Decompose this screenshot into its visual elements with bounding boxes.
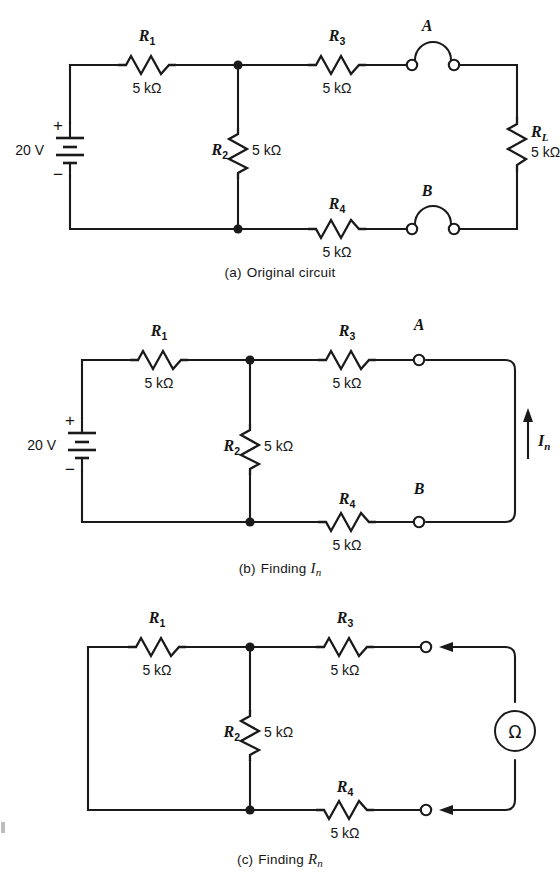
source-voltage-label: 20 V — [27, 437, 56, 453]
resistor-c-r3-value: 5 kΩ — [330, 662, 359, 678]
resistor-b-r2-value: 5 kΩ — [264, 438, 293, 454]
resistor-b-r4 — [318, 513, 376, 531]
battery-plus-sign: + — [53, 116, 63, 135]
caption-panel-b: (b)Finding In — [0, 560, 560, 578]
resistor-c-r4-zigzag — [316, 801, 374, 819]
resistor-c-r4 — [316, 801, 374, 819]
resistor-c-r1-zigzag — [128, 638, 186, 656]
resistor-r4-zigzag — [308, 220, 366, 238]
wire-c-bottom-lead — [505, 760, 515, 810]
resistor-b-r1-value: 5 kΩ — [144, 375, 173, 391]
caption-c-text: Finding — [258, 852, 308, 867]
resistor-c-r2 — [241, 710, 259, 761]
caption-panel-c: (c)Finding Rn — [0, 851, 560, 869]
resistor-r2-name: R2 — [210, 141, 228, 161]
caption-c-symbol: R — [308, 851, 317, 867]
resistor-c-r1 — [128, 638, 186, 656]
resistor-r1 — [118, 56, 176, 74]
ohm-icon: Ω — [509, 722, 522, 742]
arrow-head-top-left — [439, 642, 453, 652]
resistor-c-r2-value: 5 kΩ — [264, 724, 293, 740]
resistor-r3-name: R3 — [328, 27, 346, 47]
caption-b-symbol-sub: n — [316, 566, 322, 578]
caption-a-label: (a) — [225, 265, 242, 280]
terminal-b-right-post[interactable] — [449, 224, 459, 234]
resistor-b-r1 — [130, 351, 188, 369]
resistor-c-r3 — [316, 638, 374, 656]
norton-theorem-figure: A B — [0, 0, 560, 878]
resistor-rl-zigzag — [508, 117, 526, 172]
wire-b-left-bottom — [82, 471, 250, 522]
resistor-r1-value: 5 kΩ — [132, 80, 161, 96]
resistor-c-r2-name: R2 — [222, 723, 240, 743]
resistor-b-r4-zigzag — [318, 513, 376, 531]
caption-a-text: Original circuit — [247, 265, 336, 280]
resistor-b-r3-name: R3 — [338, 322, 356, 342]
panel-a-original-circuit: A B — [0, 0, 560, 300]
resistor-b-r1-zigzag — [130, 351, 188, 369]
resistor-b-r3-value: 5 kΩ — [332, 375, 361, 391]
resistor-c-r4-name: R4 — [336, 778, 354, 798]
resistor-rl — [508, 117, 526, 172]
resistor-b-r2 — [241, 424, 259, 475]
resistor-r4-value: 5 kΩ — [322, 244, 351, 260]
wire-right-bottom — [459, 172, 517, 229]
terminal-a-left-post[interactable] — [407, 60, 417, 70]
terminal-a-label: A — [413, 316, 425, 333]
resistor-c-r2-zigzag — [241, 710, 259, 761]
caption-c-label: (c) — [237, 852, 253, 867]
terminal-a-label: A — [421, 17, 433, 34]
jumper-arc-b — [415, 206, 451, 224]
current-label-in: In — [537, 432, 550, 452]
resistor-b-r4-value: 5 kΩ — [332, 537, 361, 553]
current-arrow-in-head — [523, 408, 533, 422]
resistor-r3 — [308, 56, 366, 74]
wire-c-top-lead — [505, 647, 515, 702]
resistor-b-r4-name: R4 — [338, 490, 356, 510]
lead-arrow-top — [439, 642, 515, 702]
resistor-b-r2-zigzag — [241, 424, 259, 475]
resistor-b-r3-zigzag — [318, 351, 376, 369]
source-voltage-label: 20 V — [15, 142, 44, 158]
lead-arrow-bottom — [439, 760, 515, 815]
resistor-b-r1-name: R1 — [150, 322, 168, 342]
caption-c-symbol-sub: n — [317, 857, 323, 869]
page-edge-artifact — [1, 822, 5, 833]
resistor-r3-value: 5 kΩ — [322, 80, 351, 96]
resistor-b-r2-name: R2 — [222, 437, 240, 457]
panel-c-finding-rn: Ω R1 5 k — [0, 592, 560, 878]
resistor-r2 — [229, 128, 247, 179]
resistor-c-r1-value: 5 kΩ — [142, 662, 171, 678]
arrow-head-bottom-left — [439, 805, 453, 815]
caption-panel-a: (a)Original circuit — [0, 265, 560, 280]
resistor-b-r3 — [318, 351, 376, 369]
terminal-b-left-post[interactable] — [407, 224, 417, 234]
terminal-a-right-post[interactable] — [449, 60, 459, 70]
caption-b-text: Finding — [261, 561, 311, 576]
resistor-c-r1-name: R1 — [148, 609, 166, 629]
terminal-b-panel-a-post[interactable] — [414, 355, 424, 365]
resistor-c-r3-zigzag — [316, 638, 374, 656]
ohmmeter-symbol: Ω — [495, 711, 535, 751]
terminal-b-label: B — [413, 480, 425, 497]
wire-b-short-link — [426, 360, 515, 522]
current-arrow-in — [523, 408, 533, 458]
battery-minus-sign: − — [65, 460, 75, 479]
resistor-r4-name: R4 — [328, 195, 346, 215]
resistor-c-r3-name: R3 — [336, 609, 354, 629]
resistor-r1-zigzag — [118, 56, 176, 74]
terminal-c-bottom-post[interactable] — [421, 805, 431, 815]
resistor-c-r4-value: 5 kΩ — [330, 825, 359, 841]
battery-minus-sign: − — [53, 165, 63, 184]
resistor-rl-name: RL — [530, 123, 549, 143]
resistor-r2-value: 5 kΩ — [252, 142, 281, 158]
wire-right-top — [459, 65, 517, 117]
resistor-r1-name: R1 — [138, 27, 156, 47]
jumper-arc-a — [415, 42, 451, 60]
panel-b-finding-in: A B — [0, 300, 560, 592]
terminal-b-panel-b-post[interactable] — [414, 517, 424, 527]
terminal-c-top-post[interactable] — [421, 642, 431, 652]
caption-b-label: (b) — [239, 561, 256, 576]
terminal-b-label: B — [421, 182, 433, 199]
resistor-r2-zigzag — [229, 128, 247, 179]
